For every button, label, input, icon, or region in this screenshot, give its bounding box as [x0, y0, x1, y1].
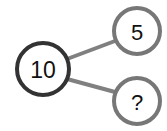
diagram-canvas: 10 5 ? — [0, 0, 167, 131]
part-bottom-unknown-label: ? — [131, 90, 143, 115]
whole-node-label: 10 — [30, 57, 56, 83]
connector-whole-to-top-part — [67, 41, 115, 59]
part-top-node-label: 5 — [131, 20, 143, 45]
connector-whole-to-bottom-part — [67, 79, 115, 92]
number-bond-diagram: 10 5 ? — [0, 0, 167, 131]
